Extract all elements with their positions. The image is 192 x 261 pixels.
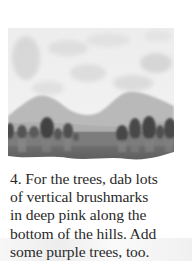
painting-graphic — [8, 28, 174, 161]
caption-line-2: of vertical brushmarks — [10, 188, 192, 206]
landscape-illustration — [8, 28, 174, 161]
caption-line-5: some purple trees, too. — [10, 243, 192, 261]
instruction-caption: 4. For the trees, dab lots of vertical b… — [10, 170, 192, 261]
caption-line-4: bottom of the hills. Add — [10, 225, 192, 243]
caption-line-3: in deep pink along the — [10, 206, 192, 224]
caption-line-1: 4. For the trees, dab lots — [10, 170, 192, 188]
